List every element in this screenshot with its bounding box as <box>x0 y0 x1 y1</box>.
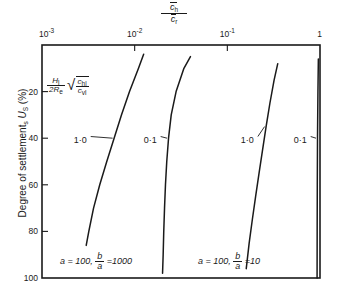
x-axis-tick-label: 1 <box>317 30 322 39</box>
y-axis-tick-label: 40 <box>16 134 38 143</box>
group-caption-a: a = 100 <box>60 256 90 266</box>
formula-denominator: 2Re <box>47 86 65 94</box>
formula-ratio-H-over-2Re: Hl 2Re <box>47 77 65 94</box>
annotation-leader-line <box>311 137 316 139</box>
y-axis-tick-label: 100 <box>16 274 38 283</box>
curve-annotation-label: 0·1 <box>144 136 157 145</box>
y-axis-tick-label: 80 <box>16 227 38 236</box>
radical-icon: √ <box>67 77 75 92</box>
data-curve <box>163 57 191 274</box>
curve-annotation-label: 1·0 <box>74 136 87 145</box>
y-axis-tick-label: 60 <box>16 181 38 190</box>
figure-chart: ch cr Degree of settlements US (%) Hl 2R… <box>0 0 338 300</box>
annotation-leader-line <box>161 137 167 139</box>
group-caption: a = 100, ba =10 <box>198 252 260 271</box>
x-axis-tick-label: 10-2 <box>127 30 142 39</box>
group-caption-ratio: ba <box>95 252 104 271</box>
group-caption-value: 10 <box>250 256 260 266</box>
formula-ratio-chl-over-cvl: chl cvl <box>76 76 89 95</box>
x-axis-tick-label: 10-1 <box>220 30 235 39</box>
curve-annotation-label: 1·0 <box>241 136 254 145</box>
parameter-formula: Hl 2Re √ chl cvl <box>47 76 89 95</box>
y-axis-tick-label: 20 <box>16 87 38 96</box>
group-caption-a: a = 100 <box>198 256 228 266</box>
formula-radicand-denominator: cvl <box>76 87 89 95</box>
data-curve <box>246 64 278 269</box>
data-curve <box>317 59 318 278</box>
group-caption: a = 100, ba =1000 <box>60 252 132 271</box>
annotation-leader-line <box>91 137 113 139</box>
plot-area <box>0 0 338 300</box>
x-axis-tick-label: 10-3 <box>39 30 54 39</box>
formula-numerator: Hl <box>47 77 65 85</box>
data-curve <box>86 54 143 245</box>
annotation-leader-line <box>258 127 265 137</box>
group-caption-ratio: ba <box>233 252 242 271</box>
curve-annotation-label: 0·1 <box>294 136 307 145</box>
formula-radicand-numerator: chl <box>76 78 89 86</box>
group-caption-value: 1000 <box>112 256 132 266</box>
